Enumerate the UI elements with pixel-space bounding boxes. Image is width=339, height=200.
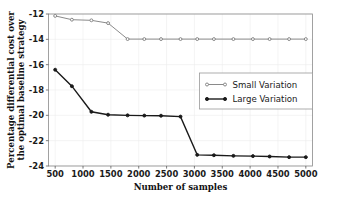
y-tick-label: -14 bbox=[29, 34, 44, 44]
series-marker bbox=[251, 38, 254, 41]
series-marker bbox=[107, 22, 110, 25]
series-marker bbox=[90, 19, 93, 22]
series-marker bbox=[251, 155, 254, 158]
series-marker bbox=[179, 38, 182, 41]
x-axis-title: Number of samples bbox=[134, 182, 228, 192]
series-marker bbox=[160, 38, 163, 41]
y-tick-label: -18 bbox=[29, 85, 44, 95]
chart-legend: Small VariationLarge Variation bbox=[200, 73, 313, 109]
series-marker bbox=[126, 114, 129, 117]
series-marker bbox=[160, 114, 163, 117]
y-tick-label: -20 bbox=[29, 110, 44, 120]
series-marker bbox=[54, 68, 57, 71]
series-marker bbox=[126, 38, 129, 41]
y-tick-label: -22 bbox=[29, 136, 44, 146]
y-axis-title: Percentage differential cost overthe opt… bbox=[6, 11, 27, 169]
series-marker bbox=[304, 38, 307, 41]
series-marker bbox=[232, 154, 235, 157]
x-tick-label: 3500 bbox=[211, 169, 234, 179]
series-marker bbox=[70, 18, 73, 21]
x-tick-label: 3000 bbox=[183, 169, 206, 179]
series-marker bbox=[107, 113, 110, 116]
x-tick-label: 500 bbox=[46, 169, 64, 179]
legend-marker-sample bbox=[206, 83, 209, 86]
series-marker bbox=[143, 38, 146, 41]
series-marker bbox=[143, 114, 146, 117]
series-marker bbox=[90, 110, 93, 113]
series-marker bbox=[212, 38, 215, 41]
chart-figure: 500100015002000250030003500400045005000 … bbox=[0, 0, 339, 200]
series-marker bbox=[268, 155, 271, 158]
series-marker bbox=[288, 38, 291, 41]
x-tick-labels: 500100015002000250030003500400045005000 bbox=[46, 169, 317, 179]
legend-marker-sample bbox=[205, 97, 208, 100]
legend-marker-sample bbox=[224, 83, 227, 86]
series-marker bbox=[54, 14, 57, 17]
series-marker bbox=[196, 153, 199, 156]
y-tick-label: -12 bbox=[29, 9, 44, 19]
legend-label: Large Variation bbox=[233, 94, 298, 104]
series-marker bbox=[304, 156, 307, 159]
x-tick-label: 1000 bbox=[71, 169, 94, 179]
series-marker bbox=[70, 85, 73, 88]
series-marker bbox=[179, 115, 182, 118]
series-marker bbox=[196, 38, 199, 41]
legend-label: Small Variation bbox=[233, 80, 298, 90]
x-tick-label: 2000 bbox=[127, 169, 150, 179]
x-tick-label: 1500 bbox=[99, 169, 122, 179]
y-tick-label: -16 bbox=[29, 60, 44, 70]
x-tick-label: 2500 bbox=[155, 169, 178, 179]
series-marker bbox=[268, 38, 271, 41]
legend-marker-sample bbox=[223, 97, 226, 100]
series-marker bbox=[212, 154, 215, 157]
y-tick-label: -24 bbox=[29, 161, 44, 171]
y-axis-title-line: Percentage differential cost over bbox=[6, 11, 16, 169]
x-tick-label: 5000 bbox=[294, 169, 317, 179]
x-tick-label: 4500 bbox=[266, 169, 289, 179]
series-marker bbox=[288, 156, 291, 159]
y-axis-title-line: the optimal baseline strategy bbox=[16, 18, 26, 160]
x-tick-label: 4000 bbox=[238, 169, 261, 179]
series-marker bbox=[232, 38, 235, 41]
